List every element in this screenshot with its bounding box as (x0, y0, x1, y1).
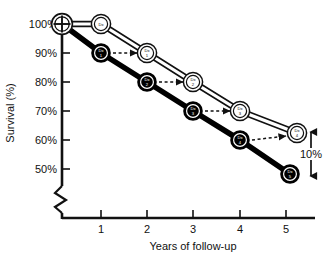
y-tick-label-60: 60% (35, 134, 57, 146)
data-point-filled-y5[interactable]: Dx 5 (280, 164, 300, 184)
data-point-filled-y2[interactable]: Dx 2 (137, 72, 157, 92)
axis-break-zigzag (55, 186, 66, 213)
data-point-filled-y3[interactable]: Dx 3 (183, 101, 203, 121)
x-tick-label-4: 4 (237, 223, 243, 235)
origin-crosshair-icon[interactable] (52, 14, 73, 35)
x-tick-label-1: 1 (98, 223, 104, 235)
y-tick-label-50: 50% (35, 163, 57, 175)
data-point-open-y5[interactable]: Dx 4 (287, 123, 306, 142)
series-open-line (62, 24, 297, 133)
data-point-open-y1[interactable]: Dx (91, 14, 110, 33)
shift-arrow-4-icon (252, 136, 286, 140)
data-point-open-y2[interactable]: Dx 1 (137, 43, 156, 62)
data-point-open-y4[interactable]: Dx 3 (230, 101, 249, 120)
x-tick-label-3: 3 (190, 223, 196, 235)
y-tick-label-90: 90% (35, 47, 57, 59)
gap-label: 10% (300, 148, 322, 160)
y-axis-title: Survival (%) (4, 83, 16, 142)
data-point-filled-y1[interactable]: Dx 1 (91, 43, 111, 63)
shift-arrows-group (113, 53, 286, 140)
x-axis-title: Years of follow-up (149, 240, 236, 252)
svg-text:Dx: Dx (98, 22, 104, 27)
data-point-open-y3[interactable]: Dx 2 (183, 72, 202, 91)
x-tick-label-5: 5 (283, 223, 289, 235)
y-tick-label-80: 80% (35, 76, 57, 88)
y-tick-label-70: 70% (35, 105, 57, 117)
x-tick-label-2: 2 (144, 223, 150, 235)
data-point-filled-y4[interactable]: Dx 4 (230, 130, 250, 150)
survival-chart: 100% 90% 80% 70% 60% 50% 1 2 3 4 5 Years… (0, 0, 323, 259)
chart-svg: 100% 90% 80% 70% 60% 50% 1 2 3 4 5 Years… (0, 0, 323, 259)
